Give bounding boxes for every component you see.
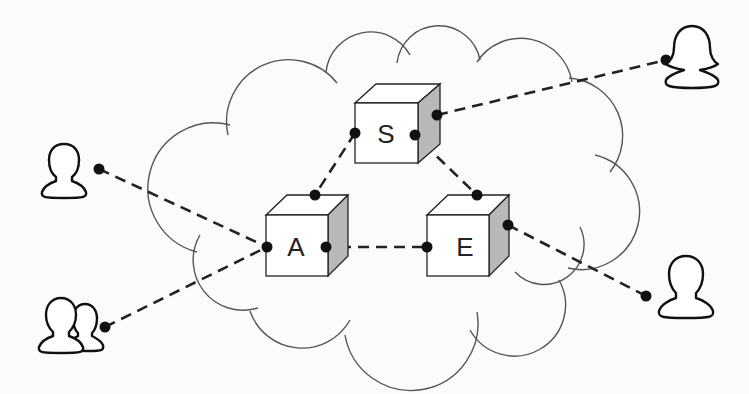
dot-a-right xyxy=(321,242,332,253)
female-user-icon[interactable] xyxy=(666,26,719,88)
male-user-icon-left[interactable] xyxy=(42,144,86,198)
dot-e-right xyxy=(503,220,514,231)
dot-user-group xyxy=(100,322,111,333)
server-cube-a[interactable]: A xyxy=(266,195,348,276)
server-cube-s[interactable]: S xyxy=(355,84,440,163)
cloud xyxy=(148,26,640,391)
dot-a-left xyxy=(262,242,273,253)
dot-s-right-lower xyxy=(410,130,421,141)
edge-user-group-to-a xyxy=(105,247,267,327)
edge-s-to-a xyxy=(315,133,355,195)
server-cube-e[interactable]: E xyxy=(427,195,509,276)
dot-a-top xyxy=(310,190,321,201)
user-group-icon[interactable] xyxy=(39,298,103,353)
dot-e-left xyxy=(422,242,433,253)
dot-user-left xyxy=(94,164,105,175)
edge-s-to-user-top-right xyxy=(437,60,666,115)
edge-user-left-to-a xyxy=(99,169,267,247)
node-label-e: E xyxy=(456,232,473,262)
node-label-s: S xyxy=(377,119,394,149)
edge-e-to-user-bottom-right xyxy=(508,225,646,296)
dot-user-bottom-right xyxy=(641,291,652,302)
dot-e-top xyxy=(472,190,483,201)
network-diagram: S A E xyxy=(0,0,749,394)
male-user-icon-bottom-right[interactable] xyxy=(659,256,713,318)
dot-s-left xyxy=(350,128,361,139)
node-label-a: A xyxy=(287,232,305,262)
dot-s-right-upper xyxy=(432,110,443,121)
